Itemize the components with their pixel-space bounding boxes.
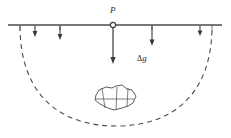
observation-point-marker xyxy=(110,22,115,27)
gravity-anomaly-figure: P Δg xyxy=(0,0,231,138)
dashed-influence-boundary xyxy=(20,26,212,126)
gravity-arrow-4 xyxy=(150,26,155,46)
gravity-arrow-3 xyxy=(110,28,115,64)
gravity-arrow-1 xyxy=(33,26,38,37)
body-outline xyxy=(95,85,136,110)
point-p-label: P xyxy=(110,6,116,15)
figure-canvas xyxy=(0,0,231,138)
delta-g-label: Δg xyxy=(137,54,147,63)
body-grid-line-3 xyxy=(127,88,128,107)
body-grid-line-2 xyxy=(116,87,117,110)
buried-anomalous-mass xyxy=(95,85,136,110)
gravity-arrow-2 xyxy=(58,26,63,40)
g-symbol: g xyxy=(142,53,147,63)
gravity-arrow-5 xyxy=(198,26,203,36)
